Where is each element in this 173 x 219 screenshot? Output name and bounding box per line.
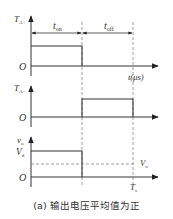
vo-axis-label: vo: [17, 135, 24, 146]
t-off-label: toff: [104, 20, 114, 32]
ta-minus-axis-label: TA−: [14, 83, 26, 94]
panel-ta-minus: TA− O: [14, 83, 158, 127]
panel-ta-plus: ton toff TA+ O t(μs): [14, 14, 158, 82]
origin-label: O: [19, 172, 26, 183]
ts-period-label: Ts: [130, 182, 137, 193]
pwm-waveform-diagram: ton toff TA+ O t(μs) TA− O vo Vd Vo O Ts: [0, 0, 173, 219]
vd-level-label: Vd: [16, 147, 25, 158]
vo-average-label: Vo: [140, 158, 148, 169]
ta-plus-waveform: [31, 46, 82, 66]
t-on-label: ton: [53, 20, 62, 32]
ta-minus-waveform: [82, 99, 133, 117]
ta-plus-axis-label: TA+: [14, 14, 26, 25]
panel-vo: vo Vd Vo O Ts: [16, 135, 158, 193]
origin-label: O: [19, 112, 26, 123]
figure-caption: (a) 输出电压平均值为正: [0, 198, 173, 212]
origin-label: O: [19, 61, 26, 72]
time-axis-label: t(μs): [128, 72, 144, 82]
